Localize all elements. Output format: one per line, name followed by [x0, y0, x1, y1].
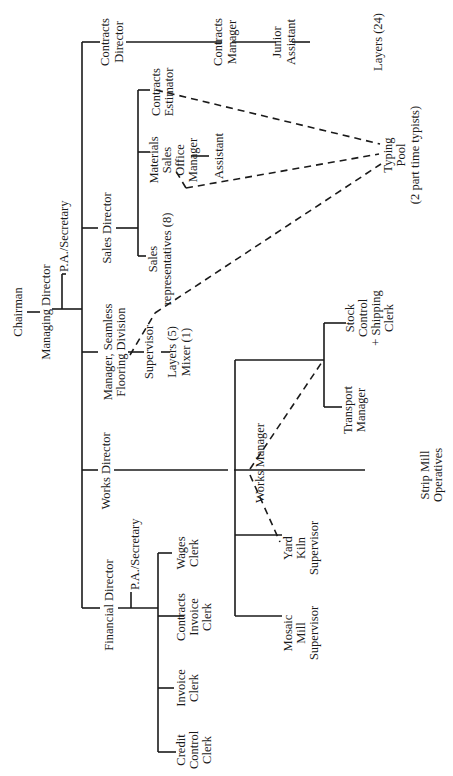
node-contracts-invoice-clerk: Contracts Invoice Clerk: [174, 593, 214, 641]
node-supervisor: Supervisor: [142, 324, 156, 379]
svg-text:Control: Control: [187, 730, 201, 769]
node-stock-control-shipping-clerk: Stock Control + Shipping Clerk: [343, 290, 396, 346]
node-materials-sales-office-manager: Materials Sales Office Manager: [147, 136, 200, 183]
svg-text:Typing: Typing: [381, 137, 395, 173]
svg-text:Pool: Pool: [394, 143, 408, 166]
svg-text:Clerk: Clerk: [200, 735, 214, 764]
node-contracts-estimator: Contracts Estimator: [149, 67, 176, 116]
svg-text:Invoice: Invoice: [187, 598, 201, 636]
node-works-director: Works Director: [99, 432, 113, 510]
svg-text:Stock: Stock: [343, 303, 357, 332]
svg-text:Layers (24): Layers (24): [371, 13, 385, 71]
svg-text:representatives (8): representatives (8): [160, 213, 174, 306]
svg-text:Contracts: Contracts: [211, 18, 225, 66]
svg-text:Mill: Mill: [294, 622, 308, 644]
svg-text:Contracts: Contracts: [174, 593, 188, 641]
svg-text:Assistant: Assistant: [212, 133, 226, 179]
svg-text:Manager: Manager: [225, 19, 239, 64]
svg-text:P.A./Secretary: P.A./Secretary: [57, 200, 71, 272]
node-layers-24: Layers (24): [371, 13, 385, 71]
node-works-manager: Works Manager: [253, 422, 267, 503]
node-yard-kiln-supervisor: Yard Kiln Supervisor: [281, 520, 321, 575]
svg-text:Manager: Manager: [186, 137, 200, 182]
node-junior-assistant: Junior Assistant: [270, 19, 298, 65]
svg-text:Yard: Yard: [281, 535, 295, 559]
svg-text:Credit: Credit: [174, 734, 188, 766]
node-transport-manager: Transport Manager: [341, 385, 368, 434]
svg-text:Layers (5): Layers (5): [165, 326, 179, 378]
svg-text:Materials: Materials: [147, 136, 161, 183]
svg-text:Manager, Seamless: Manager, Seamless: [101, 304, 115, 401]
svg-text:Flooring Division: Flooring Division: [114, 307, 128, 397]
svg-text:Works Director: Works Director: [99, 432, 113, 510]
svg-text:Managing Director: Managing Director: [39, 263, 53, 359]
node-sales-director: Sales Director: [100, 192, 114, 264]
svg-text:Sales: Sales: [160, 147, 174, 174]
svg-text:Supervisor: Supervisor: [307, 605, 321, 660]
svg-text:Strip Mill: Strip Mill: [418, 450, 432, 499]
node-chairman: Chairman: [11, 287, 25, 337]
node-invoice-clerk: Invoice Clerk: [174, 669, 201, 707]
svg-text:Chairman: Chairman: [11, 287, 25, 337]
svg-text:+ Shipping: + Shipping: [369, 290, 383, 346]
svg-text:Financial Director: Financial Director: [102, 559, 116, 651]
svg-text:Operatives: Operatives: [431, 448, 445, 502]
node-managing-director: Managing Director: [39, 263, 53, 359]
node-credit-control-clerk: Credit Control Clerk: [174, 730, 214, 769]
node-md-pa-secretary: P.A./Secretary: [57, 200, 71, 272]
svg-text:Clerk: Clerk: [382, 303, 396, 332]
node-assistant: Assistant: [212, 133, 226, 179]
svg-text:(2 part time typists): (2 part time typists): [408, 106, 422, 204]
svg-text:Contracts: Contracts: [98, 18, 112, 66]
svg-text:Director: Director: [112, 20, 126, 62]
svg-text:Control: Control: [356, 298, 370, 337]
svg-text:Office: Office: [173, 144, 187, 176]
svg-text:Assistant: Assistant: [284, 19, 298, 65]
svg-text:Transport: Transport: [341, 385, 355, 434]
svg-text:Mosaic: Mosaic: [281, 614, 295, 651]
svg-text:Sales: Sales: [146, 246, 160, 273]
svg-text:Clerk: Clerk: [187, 538, 201, 567]
node-contracts-manager: Contracts Manager: [211, 18, 239, 66]
node-seamless-flooring-manager: Manager, Seamless Flooring Division: [101, 304, 128, 401]
svg-text:Contracts: Contracts: [149, 68, 163, 116]
svg-text:Mixer (1): Mixer (1): [179, 328, 193, 376]
node-typing-pool: Typing Pool (2 part time typists): [381, 106, 422, 204]
svg-text:Manager: Manager: [354, 387, 368, 432]
svg-text:Estimator: Estimator: [162, 67, 176, 116]
node-mosaic-mill-supervisor: Mosaic Mill Supervisor: [281, 605, 321, 660]
node-contracts-director: Contracts Director: [98, 18, 126, 66]
node-sales-representatives: Sales representatives (8): [146, 213, 174, 306]
svg-text:Wages: Wages: [174, 536, 188, 569]
node-fd-pa-secretary: P.A./Secretary: [128, 518, 142, 590]
svg-text:Sales Director: Sales Director: [100, 192, 114, 264]
svg-text:Junior: Junior: [270, 26, 284, 58]
svg-text:Supervisor: Supervisor: [307, 520, 321, 575]
node-wages-clerk: Wages Clerk: [174, 536, 201, 569]
node-financial-director: Financial Director: [102, 559, 116, 651]
labels: Chairman Managing Director P.A./Secretar…: [11, 13, 445, 769]
svg-text:Works Manager: Works Manager: [253, 422, 267, 503]
node-strip-mill-operatives: Strip Mill Operatives: [418, 448, 445, 502]
node-layers-mixer: Layers (5) Mixer (1): [165, 326, 193, 378]
org-chart: Chairman Managing Director P.A./Secretar…: [0, 0, 453, 776]
svg-text:P.A./Secretary: P.A./Secretary: [128, 518, 142, 590]
svg-text:Kiln: Kiln: [294, 536, 308, 559]
svg-text:Invoice: Invoice: [174, 669, 188, 707]
svg-text:Supervisor: Supervisor: [142, 324, 156, 379]
svg-text:Clerk: Clerk: [187, 673, 201, 702]
svg-text:Clerk: Clerk: [200, 602, 214, 631]
